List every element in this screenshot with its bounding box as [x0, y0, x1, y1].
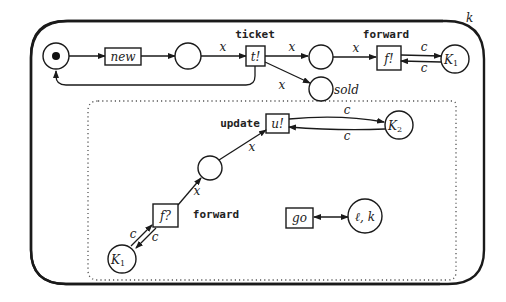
svg-text:go: go — [292, 211, 307, 225]
arc-label-c: c — [421, 40, 428, 54]
svg-text:f!: f! — [383, 52, 393, 66]
transition-forward-send: f! — [377, 46, 401, 70]
arc-label-x: x — [220, 40, 227, 54]
label-forward-top: forward — [363, 28, 409, 41]
label-sold: sold — [334, 83, 359, 97]
arc-label-c: c — [152, 230, 159, 244]
arc-label-x: x — [289, 40, 296, 54]
place-k1-top: K1 — [441, 45, 469, 73]
arc-label-c: c — [344, 103, 351, 117]
place-after-new — [175, 43, 201, 69]
label-ticket: ticket — [235, 28, 275, 41]
transition-update: u! — [266, 114, 289, 133]
place-k1-bottom: K1 — [108, 245, 136, 273]
svg-text:f?: f? — [159, 209, 171, 223]
svg-text:u!: u! — [271, 117, 284, 131]
label-forward-bottom: forward — [193, 208, 239, 221]
place-start — [43, 43, 69, 69]
label-update: update — [220, 117, 260, 130]
svg-text:t!: t! — [251, 50, 261, 64]
petri-net-diagram: k new x ticket t! x x sold x forward f! … — [0, 0, 506, 302]
place-k2: K2 — [385, 111, 413, 139]
arc-label-c: c — [421, 61, 428, 75]
place-location: ℓ, k — [348, 199, 382, 233]
arc-label-x: x — [279, 78, 286, 92]
transition-forward-recv: f? — [153, 204, 178, 227]
place-middle — [198, 156, 222, 180]
boundary-label-k: k — [466, 11, 473, 25]
place-after-ticket — [309, 45, 333, 69]
transition-go: go — [286, 208, 313, 228]
arc-label-x: x — [249, 140, 256, 154]
svg-text:new: new — [110, 50, 136, 64]
transition-new: new — [105, 48, 141, 65]
arc-label-c: c — [344, 129, 351, 143]
token-icon — [52, 52, 60, 60]
arc-label-x: x — [353, 41, 360, 55]
transition-ticket: t! — [246, 46, 265, 66]
place-sold — [309, 77, 333, 101]
arc-label-c: c — [130, 227, 137, 241]
arc-label-x: x — [194, 184, 201, 198]
svg-text:ℓ, k: ℓ, k — [355, 210, 375, 224]
return-arc — [56, 66, 255, 85]
